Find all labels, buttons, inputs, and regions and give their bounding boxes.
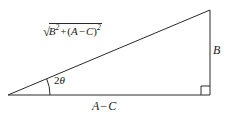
hypotenuse-line: [8, 10, 210, 95]
right-angle-marker: [201, 86, 210, 95]
angle-theta-symbol: θ: [60, 74, 65, 86]
hypotenuse-group-exponent: 2: [97, 23, 101, 32]
base-label: A−C: [92, 100, 116, 112]
hypotenuse-term-a: A: [71, 25, 78, 37]
side-b-label: B: [213, 44, 220, 56]
base-term-c: C: [108, 99, 116, 113]
base-minus-operator: −: [99, 99, 108, 113]
triangle-figure: √B2+(A−C)2 B A−C 2θ: [0, 0, 228, 119]
angle-label: 2θ: [54, 75, 65, 86]
hypotenuse-label: √B2+(A−C)2: [43, 23, 102, 38]
angle-arc: [47, 79, 50, 95]
radicand-group: B2+(A−C)2: [49, 23, 102, 37]
hypotenuse-minus-operator: −: [78, 25, 86, 37]
